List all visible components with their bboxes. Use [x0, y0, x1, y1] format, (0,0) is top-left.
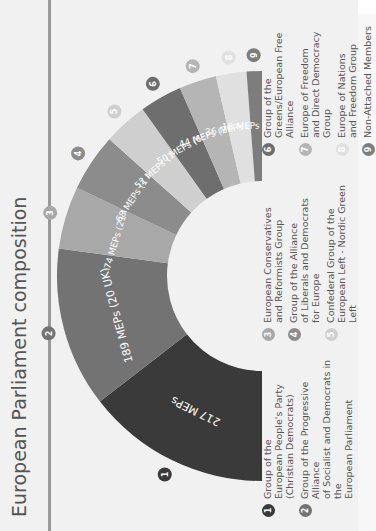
legend-item-5: 5Confederal Group of the European Left -… — [325, 166, 358, 341]
legend-item-8: 8Europe of Nations and Freedom Group — [336, 1, 358, 156]
infographic: European Parliament composition 217 MEPs… — [0, 0, 358, 531]
legend-item-9: 9Non-Attached Members — [362, 1, 375, 156]
svg-text:1: 1 — [161, 471, 170, 477]
legend-badge-icon: 2 — [299, 504, 312, 517]
legend-badge-icon: 9 — [362, 143, 375, 156]
svg-text:7: 7 — [189, 63, 198, 69]
legend-badge-icon: 1 — [262, 504, 275, 517]
legend-label: Non-Attached Members — [362, 26, 373, 138]
legend-label: Confederal Group of the European Left - … — [325, 166, 358, 323]
legend-item-1: 1Group of the European People's Party (C… — [262, 357, 295, 517]
legend-badge-icon: 5 — [325, 328, 338, 341]
legend-badge-icon: 7 — [299, 143, 312, 156]
legend-item-2: 2Group of the Progressive Alliance of So… — [299, 357, 354, 517]
legend-badge-icon: 3 — [262, 328, 275, 341]
legend-item-6: 6Group of the Greens/European Free Allia… — [262, 1, 295, 156]
legend-badge-icon: 8 — [336, 143, 349, 156]
legend-label: Group of the Alliance of Liberals and De… — [288, 198, 321, 323]
svg-text:9: 9 — [250, 52, 259, 58]
svg-text:5: 5 — [110, 108, 119, 114]
legend-item-4: 4Group of the Alliance of Liberals and D… — [288, 166, 321, 341]
svg-text:4: 4 — [74, 150, 83, 156]
legend-item-3: 3European Conservatives and Reformists G… — [262, 166, 284, 341]
legend-label: Europe of Freedom and Direct Democracy G… — [299, 1, 332, 138]
legend-label: Group of the European People's Party (Ch… — [262, 384, 295, 499]
svg-text:2: 2 — [45, 331, 54, 337]
svg-text:3: 3 — [46, 210, 55, 216]
svg-text:8: 8 — [225, 54, 234, 60]
legend-label: European Conservatives and Reformists Gr… — [262, 207, 284, 323]
legend-label: Europe of Nations and Freedom Group — [336, 44, 358, 138]
legend-label: Group of the Progressive Alliance of Soc… — [299, 357, 354, 499]
legend-badge-icon: 4 — [288, 328, 301, 341]
legend-item-7: 7Europe of Freedom and Direct Democracy … — [299, 1, 332, 156]
legend-column-2: 3European Conservatives and Reformists G… — [262, 166, 362, 341]
legend-column-3: 6Group of the Greens/European Free Allia… — [262, 1, 376, 156]
legend-badge-icon: 6 — [262, 143, 275, 156]
legend-column-1: 1Group of the European People's Party (C… — [262, 357, 358, 517]
legend-label: Group of the Greens/European Free Allian… — [262, 1, 295, 138]
svg-text:6: 6 — [149, 81, 158, 87]
